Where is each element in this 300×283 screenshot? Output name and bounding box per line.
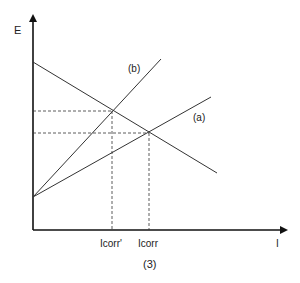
line-b-label: (b) xyxy=(128,63,140,74)
line-a xyxy=(33,97,211,197)
icorr-prime-label: Icorr' xyxy=(100,238,122,249)
y-axis-label: E xyxy=(14,24,21,36)
cathodic-line xyxy=(33,62,217,173)
figure-caption: (3) xyxy=(143,258,156,270)
icorr-label: Icorr xyxy=(138,238,158,249)
x-axis-label: I xyxy=(276,238,279,249)
line-a-label: (a) xyxy=(193,112,205,123)
